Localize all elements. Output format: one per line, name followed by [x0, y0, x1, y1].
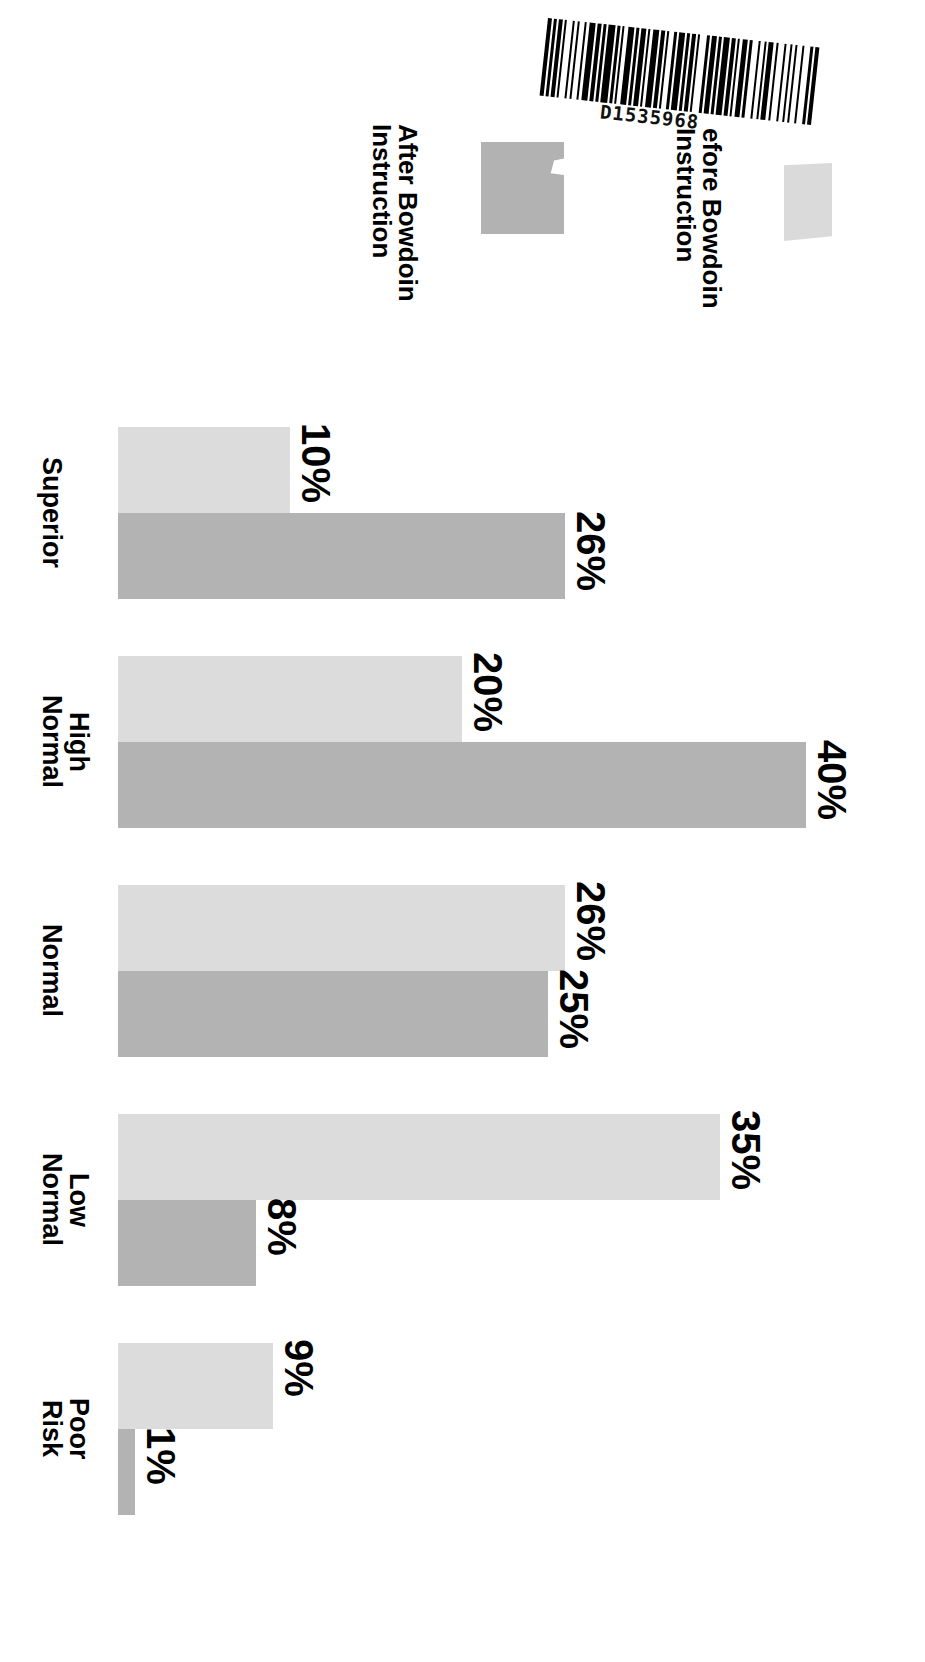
- bar-group: Normal26%25%: [0, 885, 925, 1057]
- category-label: Superior: [38, 427, 65, 599]
- value-label-after: 1%: [141, 1427, 181, 1485]
- bar-after-low-normal: [118, 1200, 256, 1286]
- bar-after-poor-risk: [118, 1429, 135, 1515]
- value-label-after: 40%: [812, 740, 852, 820]
- value-label-after: 8%: [262, 1198, 302, 1256]
- bar-before-poor-risk: [118, 1343, 273, 1429]
- value-label-after: 26%: [571, 511, 611, 591]
- bar-before-high-normal: [118, 656, 462, 742]
- bar-before-superior: [118, 427, 290, 513]
- bar-after-superior: [118, 513, 565, 599]
- bar-before-low-normal: [118, 1114, 720, 1200]
- category-label: High Normal: [38, 656, 92, 828]
- value-label-before: 26%: [571, 881, 611, 961]
- category-label: Normal: [38, 885, 65, 1057]
- value-label-before: 20%: [468, 652, 508, 732]
- bar-group: Low Normal35%8%: [0, 1114, 925, 1286]
- value-label-before: 10%: [296, 423, 336, 503]
- category-label: Low Normal: [38, 1114, 92, 1286]
- bar-group: Poor Risk9%1%: [0, 1343, 925, 1515]
- value-label-before: 9%: [279, 1339, 319, 1397]
- bar-after-normal: [118, 971, 548, 1057]
- bar-after-high-normal: [118, 742, 806, 828]
- bar-group: Superior10%26%: [0, 427, 925, 599]
- value-label-after: 25%: [554, 969, 594, 1049]
- chart-page: D1535968 After Bowdoin Instruction efore…: [0, 0, 925, 1662]
- bar-group: High Normal20%40%: [0, 656, 925, 828]
- category-label: Poor Risk: [38, 1343, 92, 1515]
- bar-before-normal: [118, 885, 565, 971]
- bar-chart-plot: Superior10%26%High Normal20%40%Normal26%…: [0, 0, 925, 1662]
- value-label-before: 35%: [726, 1110, 766, 1190]
